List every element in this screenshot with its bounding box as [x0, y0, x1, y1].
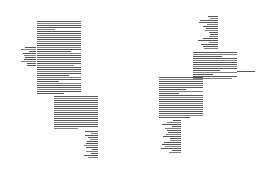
- text-line: [54, 124, 98, 125]
- text-line: [37, 61, 81, 62]
- text-line: [206, 28, 218, 29]
- text-line: [159, 101, 203, 102]
- text-line: [193, 72, 237, 73]
- text-line: [210, 34, 218, 35]
- text-line: [84, 145, 98, 146]
- text-line: [27, 65, 36, 66]
- text-line: [159, 103, 203, 104]
- text-line: [209, 32, 218, 33]
- text-line: [203, 38, 218, 39]
- text-line: [88, 157, 98, 158]
- text-line: [37, 47, 81, 48]
- text-line: [54, 96, 98, 97]
- text-line: [200, 20, 218, 21]
- text-line: [25, 47, 36, 48]
- text-line: [159, 99, 203, 100]
- text-line: [54, 122, 98, 123]
- text-line: [170, 138, 181, 139]
- text-line: [172, 150, 181, 151]
- text-line: [37, 43, 81, 44]
- text-line: [87, 141, 98, 142]
- text-line: [203, 46, 218, 47]
- text-line: [37, 89, 81, 90]
- right-right-aligned-list: [160, 120, 181, 154]
- text-line: [159, 109, 203, 110]
- text-line: [169, 152, 181, 153]
- text-line: [86, 147, 98, 148]
- text-line: [54, 110, 98, 111]
- text-line: [168, 132, 181, 133]
- text-line: [159, 113, 203, 114]
- text-line: [37, 93, 64, 94]
- text-line: [37, 79, 81, 80]
- text-line: [54, 102, 98, 103]
- left-continued-text-block: [54, 96, 98, 130]
- text-line: [167, 122, 181, 123]
- text-line: [159, 85, 203, 86]
- text-line: [37, 87, 81, 88]
- text-line: [37, 31, 81, 32]
- right-main-text-block: [193, 52, 237, 80]
- text-line: [193, 60, 237, 61]
- text-line: [21, 49, 36, 50]
- text-line: [37, 77, 81, 78]
- text-line: [37, 37, 81, 38]
- text-line: [193, 58, 237, 59]
- text-line: [91, 133, 98, 134]
- text-line: [159, 79, 203, 80]
- text-line: [54, 118, 98, 119]
- text-line: [54, 108, 98, 109]
- text-line: [37, 41, 81, 42]
- text-line: [54, 128, 78, 129]
- text-line: [159, 97, 203, 98]
- text-line: [54, 114, 98, 115]
- text-line: [193, 64, 237, 65]
- text-line: [162, 144, 181, 145]
- text-line: [37, 53, 81, 54]
- text-line: [25, 57, 36, 58]
- text-line: [164, 142, 181, 143]
- text-line: [37, 57, 81, 58]
- text-line: [37, 65, 74, 66]
- text-line: [163, 136, 181, 137]
- text-line: [204, 48, 218, 49]
- text-line: [159, 91, 203, 92]
- text-line: [54, 104, 98, 105]
- text-line: [159, 77, 203, 78]
- text-line: [159, 83, 203, 84]
- text-line: [37, 29, 55, 30]
- text-line: [37, 85, 81, 86]
- text-line: [54, 98, 98, 99]
- text-line: [161, 148, 181, 149]
- text-line: [162, 124, 181, 125]
- text-line: [37, 69, 81, 70]
- text-line: [173, 120, 181, 121]
- right-continued-text-block: [159, 77, 203, 119]
- text-line: [170, 140, 181, 141]
- text-line: [209, 36, 218, 37]
- text-line: [29, 51, 36, 52]
- text-line: [37, 63, 81, 64]
- text-line: [54, 116, 98, 117]
- text-line: [208, 16, 218, 17]
- text-line: [193, 74, 213, 75]
- text-line: [88, 137, 98, 138]
- text-line: [54, 126, 98, 127]
- text-line: [203, 26, 218, 27]
- text-line: [159, 115, 203, 116]
- text-line: [159, 87, 203, 88]
- text-line: [37, 33, 81, 34]
- text-line: [210, 18, 218, 19]
- text-line: [54, 106, 98, 107]
- text-line: [193, 54, 237, 55]
- text-line: [37, 23, 81, 24]
- text-line: [54, 112, 98, 113]
- text-line: [37, 25, 81, 26]
- text-line: [27, 63, 36, 64]
- right-right-aligned-list: [196, 16, 218, 50]
- text-line: [237, 71, 255, 72]
- text-line: [193, 70, 220, 71]
- text-line: [37, 21, 81, 22]
- text-line: [37, 45, 81, 46]
- text-line: [37, 59, 81, 60]
